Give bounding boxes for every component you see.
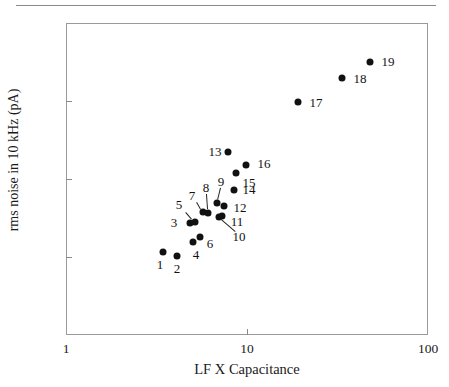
data-point [295, 99, 302, 106]
data-point [160, 249, 167, 256]
figure-scatter-plot: 0.100.150.200.250.300.350.400.450.50 110… [0, 0, 449, 387]
data-point-label: 6 [207, 236, 214, 252]
data-point-label: 3 [171, 215, 178, 231]
data-point-label: 15 [243, 175, 256, 191]
data-point [225, 149, 232, 156]
x-tick-label: 100 [418, 341, 438, 357]
data-point-label: 18 [354, 71, 367, 87]
y-axis-label: rms noise in 10 kHz (pA) [6, 30, 22, 290]
data-point-label: 2 [174, 261, 181, 277]
data-point [205, 210, 212, 217]
data-point [243, 162, 250, 169]
x-axis-label: LF X Capacitance [66, 361, 428, 378]
label-leader-line [206, 194, 208, 209]
y-tick-mark [66, 257, 72, 258]
data-point-label: 13 [209, 144, 222, 160]
data-point [339, 75, 346, 82]
label-leader-line [185, 212, 192, 220]
data-point [367, 59, 374, 66]
top-horizontal-rule [16, 5, 436, 6]
x-tick-label: 1 [63, 341, 70, 357]
data-point [221, 203, 228, 210]
data-point-label: 4 [193, 247, 200, 263]
data-point [192, 219, 199, 226]
data-point-label: 19 [382, 54, 395, 70]
data-point-label: 16 [258, 156, 271, 172]
data-point [219, 213, 226, 220]
data-point-label: 5 [176, 197, 183, 213]
data-point [197, 234, 204, 241]
x-tick-label: 10 [240, 341, 254, 357]
data-point [214, 200, 221, 207]
data-point-label: 12 [234, 200, 247, 216]
y-tick-mark [66, 179, 72, 180]
data-point [190, 239, 197, 246]
data-point-label: 7 [189, 188, 196, 204]
data-point [233, 170, 240, 177]
data-point [231, 187, 238, 194]
y-tick-mark [66, 101, 72, 102]
label-leader-line [196, 202, 201, 209]
plot-area: 0.100.150.200.250.300.350.400.450.50 110… [66, 23, 428, 335]
data-point-label: 1 [157, 257, 164, 273]
data-point-label: 17 [310, 95, 323, 111]
data-point [174, 253, 181, 260]
data-point-label: 11 [231, 214, 244, 230]
x-tick-mark [247, 329, 248, 335]
